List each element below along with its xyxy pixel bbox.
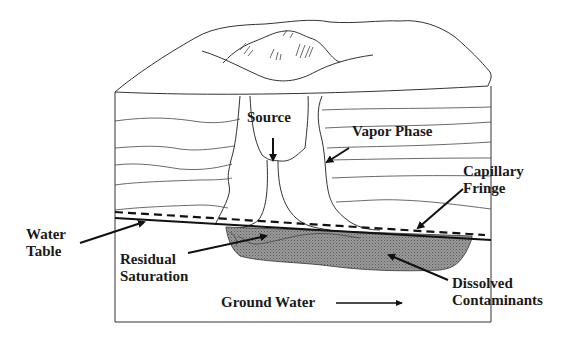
label-residual: Residual xyxy=(120,251,176,267)
label-contaminants: Contaminants xyxy=(452,292,543,308)
label-table: Table xyxy=(26,243,62,259)
pile-base xyxy=(202,51,373,81)
label-ground-water: Ground Water xyxy=(221,294,315,310)
soil-block xyxy=(115,86,491,322)
labels: Source Vapor Phase Capillary Fringe Wate… xyxy=(26,109,543,310)
contamination-diagram: Source Vapor Phase Capillary Fringe Wate… xyxy=(0,0,580,341)
vapor-plume xyxy=(215,96,380,230)
label-capillary: Capillary xyxy=(463,163,524,179)
capillary-fringe-arrow xyxy=(418,189,463,228)
label-source: Source xyxy=(247,109,291,125)
source-pile xyxy=(223,31,340,63)
water-table-arrow xyxy=(80,222,144,243)
label-dissolved: Dissolved xyxy=(452,275,514,291)
dissolved-plume xyxy=(226,227,472,271)
soil-strata xyxy=(115,107,491,210)
label-fringe: Fringe xyxy=(463,180,506,196)
label-saturation: Saturation xyxy=(120,268,189,284)
terrain-surface xyxy=(115,20,491,94)
label-vapor-phase: Vapor Phase xyxy=(352,123,433,139)
label-water: Water xyxy=(26,226,66,242)
